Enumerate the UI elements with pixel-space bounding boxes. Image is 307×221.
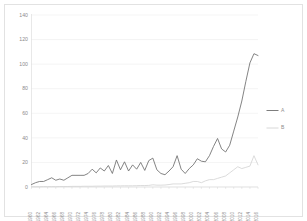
x-axis-tick-label: 2000 bbox=[189, 212, 194, 221]
x-axis-tick-label: 1988 bbox=[141, 212, 146, 221]
x-axis-tick-label: 1962 bbox=[36, 212, 41, 221]
line-chart-plot: 020406080100120140 196019621964196619681… bbox=[0, 0, 307, 221]
x-axis-tick-label: 1960 bbox=[28, 212, 33, 221]
x-axis-tick-label: 1972 bbox=[76, 212, 81, 221]
y-axis-tick-label: 140 bbox=[19, 12, 28, 18]
axis-lines bbox=[32, 14, 259, 187]
y-axis-tick-label: 80 bbox=[22, 85, 28, 91]
x-axis-tick-label: 2004 bbox=[205, 212, 210, 221]
x-axis-tick-label: 1978 bbox=[100, 212, 105, 221]
x-axis-tick-label: 2010 bbox=[230, 212, 235, 221]
x-axis-tick-label: 1994 bbox=[165, 212, 170, 221]
x-axis-tick-label: 1990 bbox=[149, 212, 154, 221]
x-axis-tick-label: 2006 bbox=[214, 212, 219, 221]
x-axis-tick-label: 1966 bbox=[52, 212, 57, 221]
y-axis-tick-label: 20 bbox=[22, 159, 28, 165]
y-axis-tick-label: 40 bbox=[22, 135, 28, 141]
x-axis-tick-label: 1996 bbox=[173, 212, 178, 221]
x-axis-tick-label: 2002 bbox=[197, 212, 202, 221]
data-series bbox=[32, 54, 259, 187]
chart-container: 020406080100120140 196019621964196619681… bbox=[0, 0, 307, 221]
x-axis-tick-label: 1982 bbox=[116, 212, 121, 221]
y-axis-tick-label: 0 bbox=[25, 184, 28, 190]
series-line-a bbox=[32, 54, 259, 185]
legend-label-b[interactable]: B bbox=[281, 124, 285, 130]
x-axis-tick-label: 1974 bbox=[84, 212, 89, 221]
x-axis-tick-label: 1976 bbox=[92, 212, 97, 221]
gridlines bbox=[32, 15, 259, 187]
x-axis-tick-label: 2014 bbox=[246, 212, 251, 221]
y-axis-tick-label: 100 bbox=[19, 61, 28, 67]
y-axis-tick-label: 60 bbox=[22, 110, 28, 116]
y-axis-ticks: 020406080100120140 bbox=[19, 12, 28, 190]
x-axis-tick-label: 1998 bbox=[181, 212, 186, 221]
x-axis-ticks: 1960196219641966196819701972197419761978… bbox=[28, 187, 260, 221]
x-axis-tick-label: 2012 bbox=[238, 212, 243, 221]
legend-label-a[interactable]: A bbox=[281, 107, 285, 113]
x-axis-tick-label: 1984 bbox=[125, 212, 130, 221]
x-axis-tick-label: 1968 bbox=[60, 212, 65, 221]
x-axis-tick-label: 1980 bbox=[108, 212, 113, 221]
x-axis-tick-label: 1970 bbox=[68, 212, 73, 221]
x-axis-tick-label: 1986 bbox=[133, 212, 138, 221]
series-line-b bbox=[32, 156, 259, 187]
x-axis-tick-label: 2008 bbox=[222, 212, 227, 221]
x-axis-tick-label: 1992 bbox=[157, 212, 162, 221]
x-axis-tick-label: 2016 bbox=[254, 212, 259, 221]
y-axis-tick-label: 120 bbox=[19, 36, 28, 42]
chart-legend[interactable]: AB bbox=[267, 107, 286, 131]
x-axis-tick-label: 1964 bbox=[44, 212, 49, 221]
